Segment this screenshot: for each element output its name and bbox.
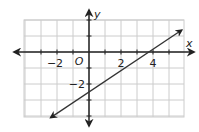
plotted-line <box>51 30 182 118</box>
y-tick-label: −2 <box>69 78 85 91</box>
line-series <box>51 30 182 118</box>
coordinate-plane: −224−2Oxy <box>0 0 199 132</box>
x-tick-label: 4 <box>150 57 157 70</box>
origin-label: O <box>75 55 84 68</box>
x-tick-label: −2 <box>47 57 63 70</box>
x-axis-label: x <box>185 37 193 50</box>
y-axis-label: y <box>93 8 101 21</box>
x-tick-label: 2 <box>118 57 125 70</box>
